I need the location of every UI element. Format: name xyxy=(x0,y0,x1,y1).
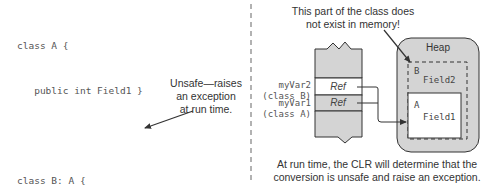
b-field: Field2 xyxy=(423,75,456,85)
heap-title: Heap xyxy=(426,42,450,53)
a-field: Field1 xyxy=(423,112,456,122)
a-label: A xyxy=(414,100,420,110)
stack: Ref Ref xyxy=(315,42,362,143)
ref2-label: Ref xyxy=(330,81,347,92)
diagram-canvas: Ref Ref Heap B Field2 A Field1 xyxy=(0,0,493,186)
ref1-label: Ref xyxy=(330,97,347,108)
unsafe-arrow xyxy=(145,111,193,128)
b-label: B xyxy=(414,66,419,76)
heap: Heap B Field2 A Field1 xyxy=(397,38,479,152)
